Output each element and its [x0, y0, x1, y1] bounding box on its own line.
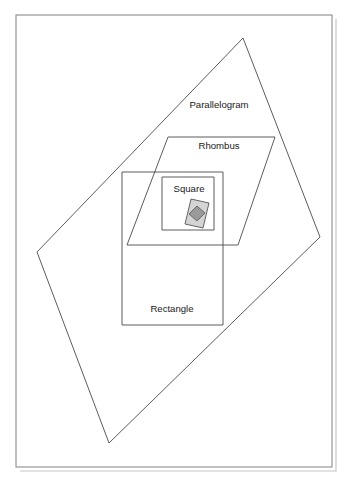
diagram-root: Parallelogram Rhombus Rectangle Square — [0, 0, 349, 485]
shape-parallelogram[interactable] — [37, 38, 320, 443]
shape-hierarchy-diagram: Parallelogram Rhombus Rectangle Square — [0, 0, 349, 485]
page-frame — [16, 15, 332, 467]
label-rhombus: Rhombus — [198, 140, 239, 151]
label-square: Square — [174, 183, 205, 194]
label-parallelogram: Parallelogram — [189, 99, 248, 110]
label-rectangle: Rectangle — [150, 303, 193, 314]
